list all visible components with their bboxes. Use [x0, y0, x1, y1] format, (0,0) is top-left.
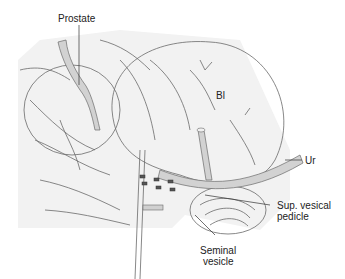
seminal-vesicle-label-2: vesicle	[203, 256, 234, 267]
sup-vesical-pedicle-label-2: pedicle	[277, 211, 309, 222]
seminal-vesicle-label-1: Seminal	[200, 245, 236, 256]
prostate-label: Prostate	[58, 13, 95, 24]
bladder-label: Bl	[216, 90, 225, 101]
ureter-label: Ur	[305, 155, 316, 166]
sup-vesical-pedicle-label-1: Sup. vesical	[277, 200, 331, 211]
pelvic-background	[18, 30, 290, 230]
anatomical-illustration	[0, 0, 345, 279]
